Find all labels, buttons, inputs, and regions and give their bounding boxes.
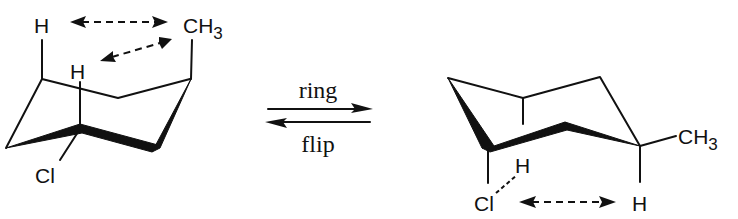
right-interaction-arrow-cl-h [519,196,616,208]
right-cl-h-contact [496,175,517,193]
equilibrium-label-bottom: flip [301,131,334,157]
right-h-near-cl-label: H [515,154,530,177]
right-chloro-label: Cl [474,192,494,215]
equilibrium-label-top: ring [299,77,338,103]
left-axial-bond-methyl [191,40,192,79]
left-methyl-label: CH3 [183,14,223,43]
left-chloro-label: Cl [35,164,55,187]
left-chair-front-wedge-mid [80,124,158,152]
left-interaction-arrow-h-top-methyl [70,16,168,28]
left-chair: H H CH3 Cl [6,14,223,187]
right-equatorial-bond-methyl [640,136,676,146]
left-h-top-label: H [34,14,49,37]
ring-flip-diagram: H H CH3 Cl ring flip [0,0,738,219]
left-h-axial-label: H [70,60,85,83]
diagram-canvas: H H CH3 Cl ring flip [0,0,738,219]
left-interaction-arrow-h-axial-methyl [100,37,172,62]
right-methyl-label: CH3 [678,125,718,154]
ring-flip-equilibrium: ring flip [265,77,373,157]
right-h-axial-label: H [632,192,647,215]
left-chair-front-wedge-right [152,79,191,152]
right-chair: CH3 Cl H H [448,77,718,215]
right-chair-front-wedge-mid [482,122,567,152]
